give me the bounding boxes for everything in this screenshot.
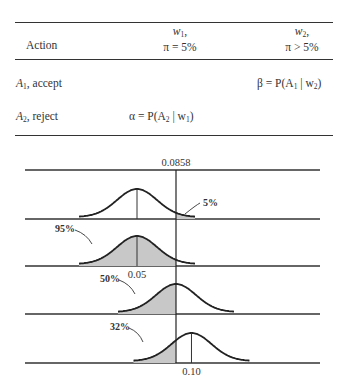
- leader-arrow-3: [119, 280, 135, 294]
- mean-label-4: 0.10: [182, 366, 200, 377]
- percent-label-2: 95%: [55, 223, 75, 234]
- shaded-area-3: [118, 284, 176, 314]
- leader-arrow-1: [185, 203, 200, 214]
- mean-label-2: 0.05: [128, 269, 146, 280]
- critical-value-label: 0.0858: [162, 157, 191, 168]
- percent-label-3: 50%: [100, 273, 120, 284]
- leader-arrow-4: [129, 328, 143, 342]
- percent-label-4: 32%: [110, 321, 130, 332]
- distribution-diagram: 0.08585%0.0595%50%0.1032%: [0, 0, 343, 390]
- leader-arrow-2: [75, 230, 92, 244]
- percent-label-1: 5%: [203, 197, 218, 208]
